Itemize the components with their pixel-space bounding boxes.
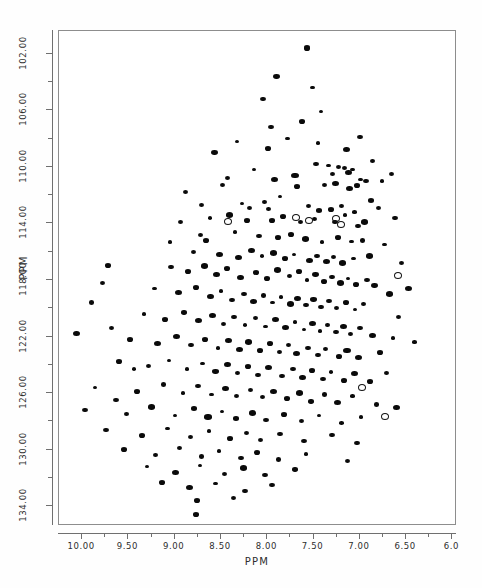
peak-marker — [341, 378, 347, 383]
peak-marker — [285, 137, 290, 141]
plot-area — [58, 30, 456, 525]
peak-marker — [392, 216, 397, 220]
peak-marker — [346, 186, 353, 191]
peak-marker — [351, 371, 358, 376]
peak-marker — [298, 220, 303, 224]
peak-marker — [105, 263, 112, 268]
peak-marker — [177, 446, 182, 450]
peak-marker — [231, 496, 236, 500]
y-tick-minor — [48, 81, 52, 82]
peak-marker — [354, 441, 359, 445]
peak-marker — [389, 172, 395, 176]
peak-marker — [280, 214, 287, 219]
peak-marker — [211, 150, 217, 155]
y-tick-label: 102.00 — [0, 45, 46, 61]
peak-marker — [292, 253, 297, 257]
y-tick-label: 106.00 — [0, 101, 46, 117]
peak-marker — [310, 86, 314, 90]
peak-marker — [349, 240, 353, 243]
peak-marker — [286, 343, 292, 348]
peak-marker — [333, 330, 339, 334]
y-tick — [46, 109, 52, 110]
x-tick-minor — [151, 533, 152, 537]
y-axis-title: PPM — [8, 262, 38, 273]
peak-marker — [139, 433, 145, 438]
x-tick — [81, 533, 82, 539]
peak-marker — [353, 308, 358, 312]
peak-marker — [234, 394, 239, 398]
x-tick — [313, 533, 314, 539]
peak-marker — [266, 207, 271, 211]
x-tick-minor — [197, 533, 198, 537]
peak-marker — [334, 306, 339, 310]
peak-marker — [244, 431, 249, 435]
peak-marker — [279, 295, 284, 299]
peak-marker — [260, 254, 264, 258]
peak-marker — [124, 412, 129, 416]
peak-marker — [253, 316, 258, 320]
peak-marker — [142, 312, 147, 316]
peak-marker — [173, 414, 177, 418]
y-tick-minor — [48, 251, 52, 252]
peak-marker — [320, 240, 325, 244]
peak-marker — [316, 208, 323, 213]
peak-marker — [262, 200, 267, 204]
peak-marker — [244, 218, 250, 223]
y-tick-label-text: 114.00 — [15, 206, 31, 239]
peak-marker — [353, 282, 360, 287]
peak-marker — [296, 390, 303, 396]
x-tick — [266, 533, 267, 539]
peak-marker — [191, 250, 196, 254]
peak-marker — [315, 353, 321, 358]
peak-marker — [312, 272, 318, 277]
peak-marker — [366, 253, 373, 258]
peak-marker — [238, 456, 244, 461]
y-tick-minor — [48, 477, 52, 478]
peak-marker — [336, 354, 342, 359]
peak-marker — [369, 333, 376, 338]
peak-marker-open — [292, 214, 300, 221]
peak-marker — [222, 386, 229, 391]
peak-marker — [199, 203, 204, 207]
x-tick-label: 6.0 — [421, 541, 481, 551]
peak-marker — [224, 266, 230, 271]
peak-marker — [334, 400, 341, 405]
peak-marker — [343, 348, 350, 354]
peak-marker — [241, 292, 247, 297]
y-tick-label-text: 102.00 — [15, 36, 31, 69]
peak-marker — [252, 168, 256, 172]
peak-marker — [185, 269, 191, 274]
peak-marker — [200, 362, 205, 366]
peak-marker — [255, 373, 260, 377]
peak-marker — [322, 392, 327, 396]
peak-marker — [271, 177, 278, 182]
peak-marker — [277, 432, 283, 437]
peak-marker — [329, 370, 333, 374]
peak-layer — [59, 31, 455, 524]
peak-marker — [354, 183, 360, 188]
peak-marker — [306, 258, 313, 263]
peak-marker — [209, 393, 214, 397]
peak-marker — [291, 173, 298, 179]
peak-marker — [240, 465, 247, 471]
peak-marker-open — [394, 272, 402, 279]
peak-marker — [193, 512, 199, 517]
peak-marker-open — [381, 413, 389, 420]
peak-marker — [306, 204, 311, 208]
x-tick-minor — [289, 533, 290, 537]
peak-marker — [309, 368, 315, 373]
peak-marker — [350, 394, 355, 398]
peak-marker — [376, 206, 381, 210]
peak-marker — [313, 162, 319, 167]
peak-marker — [89, 300, 95, 304]
peak-marker — [260, 97, 266, 102]
peak-marker — [203, 238, 209, 243]
peak-marker — [275, 235, 281, 240]
peak-marker — [343, 147, 350, 152]
peak-marker — [323, 347, 328, 351]
x-tick-minor — [104, 533, 105, 537]
peak-marker — [316, 141, 321, 145]
peak-marker — [212, 369, 218, 374]
peak-marker — [380, 179, 384, 183]
peak-marker — [148, 404, 155, 410]
